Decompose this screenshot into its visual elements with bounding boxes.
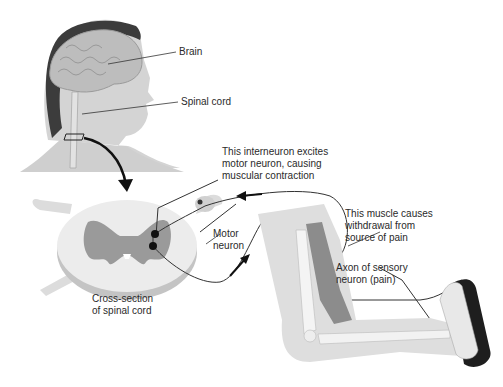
motor-neuron-label-line-1: Motor: [213, 228, 244, 240]
sensory-axon-label-line-2: neuron (pain): [336, 274, 408, 286]
interneuron-label-line-2: motor neuron, causing: [222, 158, 328, 170]
sensory-axon-label-line-1: Axon of sensory: [336, 262, 408, 274]
cross-section-label: Cross-section of spinal cord: [92, 293, 153, 317]
motor-neuron-label-line-2: neuron: [213, 240, 244, 252]
muscle-label-line-1: This muscle causes: [345, 208, 433, 220]
motor-neuron-label: Motor neuron: [213, 228, 244, 252]
interneuron-label-line-3: muscular contraction: [222, 170, 328, 182]
interneuron-label: This interneuron excites motor neuron, c…: [222, 146, 328, 182]
muscle-label-line-3: source of pain: [345, 232, 433, 244]
cross-section-label-line-2: of spinal cord: [92, 305, 153, 317]
interneuron-label-line-1: This interneuron excites: [222, 146, 328, 158]
cross-section-label-line-1: Cross-section: [92, 293, 153, 305]
muscle-label-line-2: withdrawal from: [345, 220, 433, 232]
muscle-label: This muscle causes withdrawal from sourc…: [345, 208, 433, 244]
sensory-axon-label: Axon of sensory neuron (pain): [336, 262, 408, 286]
leader-lines: [0, 0, 503, 387]
